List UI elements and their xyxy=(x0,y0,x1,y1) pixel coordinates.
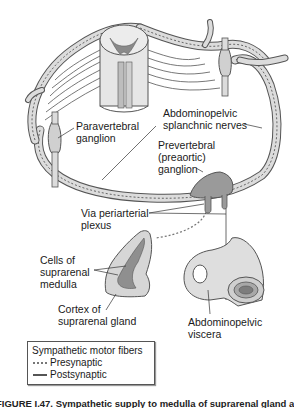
label-line: Cortex of xyxy=(58,303,136,315)
figure-caption: FIGURE I.47. Sympathetic supply to medul… xyxy=(0,398,294,408)
label-suprarenal-medulla: Cells of suprarenal medulla xyxy=(40,254,90,290)
label-prevertebral-ganglion: Prevertebral (preaortic) ganglion xyxy=(158,139,215,175)
solid-line-icon xyxy=(33,374,47,376)
label-line: viscera xyxy=(188,328,262,340)
label-line: splanchnic nerves xyxy=(163,119,247,131)
label-suprarenal-cortex: Cortex of suprarenal gland xyxy=(58,303,136,327)
prevertebral-ganglion xyxy=(190,172,233,213)
label-line: Abdominopelvic xyxy=(188,316,262,328)
legend-title: Sympathetic motor fibers xyxy=(32,345,150,357)
label-splanchnic-nerves: Abdominopelvic splanchnic nerves xyxy=(163,107,247,131)
legend-label: Presynaptic xyxy=(50,357,102,369)
label-line: Prevertebral xyxy=(158,139,215,151)
label-periarterial-plexus: Via periarterial plexus xyxy=(81,207,149,231)
label-line: medulla xyxy=(40,278,90,290)
label-line: Cells of xyxy=(40,254,90,266)
label-line: Paravertebral xyxy=(76,120,139,132)
label-line: plexus xyxy=(81,219,149,231)
label-line: suprarenal xyxy=(40,266,90,278)
label-line: suprarenal gland xyxy=(58,315,136,327)
label-line: Abdominopelvic xyxy=(163,107,247,119)
label-line: ganglion xyxy=(158,163,215,175)
suprarenal-gland xyxy=(105,231,151,297)
dotted-line-icon xyxy=(33,362,47,364)
label-line: (preaortic) xyxy=(158,151,215,163)
label-line: Via periarterial xyxy=(81,207,149,219)
label-paravertebral-ganglion: Paravertebral ganglion xyxy=(76,120,139,144)
legend-item-postsynaptic: Postsynaptic xyxy=(32,369,150,381)
legend-item-presynaptic: Presynaptic xyxy=(32,357,150,369)
legend-box: Sympathetic motor fibers Presynaptic Pos… xyxy=(27,341,155,385)
presynaptic-fiber-to-suprarenal xyxy=(155,212,206,238)
label-abdominopelvic-viscera: Abdominopelvic viscera xyxy=(188,316,262,340)
spinal-cord-segment xyxy=(45,25,220,120)
label-line: ganglion xyxy=(76,132,139,144)
abdominopelvic-viscera xyxy=(184,238,264,306)
legend-label: Postsynaptic xyxy=(50,369,107,381)
